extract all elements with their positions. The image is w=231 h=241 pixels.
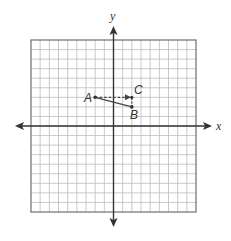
point-a-label: A: [83, 91, 92, 105]
x-axis-label: x: [215, 119, 222, 133]
coordinate-plane: x y A B C: [0, 0, 231, 241]
y-axis-label: y: [109, 9, 116, 23]
point-c: [130, 96, 133, 99]
point-a: [93, 96, 97, 100]
point-c-label: C: [134, 83, 143, 97]
point-b-label: B: [130, 108, 138, 122]
